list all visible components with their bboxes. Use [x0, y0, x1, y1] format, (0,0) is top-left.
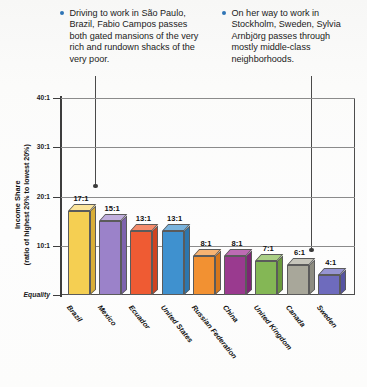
y-axis-title: Income Share (ratio of highest 20% to lo… — [13, 130, 32, 280]
x-axis-label: Ecuador — [127, 303, 152, 331]
bar-side-face — [215, 250, 221, 295]
gridline-30:1 — [60, 147, 355, 148]
gridline-20:1 — [60, 197, 355, 198]
bar-front-face — [287, 265, 309, 295]
bar-side-face — [184, 226, 190, 295]
bar-sweden[interactable] — [318, 275, 340, 295]
bar-united-kingdom[interactable] — [255, 261, 277, 295]
y-axis-title-main: Income Share — [13, 180, 22, 228]
bar-russian-federation[interactable] — [193, 256, 215, 295]
x-axis-label: Brazil — [65, 303, 84, 324]
y-tick-label: 40:1 — [6, 94, 50, 101]
income-share-bar-chart: Equality10:120:130:140:1 Income Share (r… — [0, 0, 367, 387]
bar-value-label: 15:1 — [92, 204, 132, 213]
bar-front-face — [255, 261, 277, 295]
bar-front-face — [68, 211, 90, 295]
bar-value-label: 6:1 — [280, 248, 320, 257]
bar-united-states[interactable] — [162, 231, 184, 295]
bar-front-face — [162, 231, 184, 295]
chart-page: Driving to work in São Paulo, Brazil, Fa… — [0, 0, 367, 387]
bar-mexico[interactable] — [99, 221, 121, 295]
bar-china[interactable] — [224, 256, 246, 295]
bar-front-face — [99, 221, 121, 295]
bar-value-label: 17:1 — [61, 194, 101, 203]
bar-side-face — [277, 255, 283, 295]
y-tick-label: Equality — [6, 291, 50, 298]
y-axis-title-sub: (ratio of highest 20% to lowest 20%) — [24, 144, 32, 265]
y-tick — [53, 295, 61, 296]
gridline-40:1 — [60, 98, 355, 99]
bar-front-face — [318, 275, 340, 295]
bar-side-face — [246, 250, 252, 295]
bar-value-label: 13:1 — [155, 214, 195, 223]
bar-value-label: 4:1 — [311, 258, 351, 267]
bar-side-face — [90, 206, 96, 295]
y-tick — [53, 246, 61, 247]
x-axis-label: Canada — [284, 303, 307, 329]
x-axis-label: Sweden — [315, 303, 339, 330]
bar-canada[interactable] — [287, 265, 309, 295]
y-tick — [53, 197, 61, 198]
bar-side-face — [152, 226, 158, 295]
bar-front-face — [224, 256, 246, 295]
bar-front-face — [130, 231, 152, 295]
y-tick — [53, 147, 61, 148]
bar-ecuador[interactable] — [130, 231, 152, 295]
bar-front-face — [193, 256, 215, 295]
x-axis-label: United States — [159, 303, 195, 344]
y-tick — [53, 98, 61, 99]
x-axis-label: Mexico — [96, 303, 118, 328]
bar-side-face — [121, 216, 127, 295]
bar-brazil[interactable] — [68, 211, 90, 295]
x-axis-label: China — [221, 303, 241, 324]
